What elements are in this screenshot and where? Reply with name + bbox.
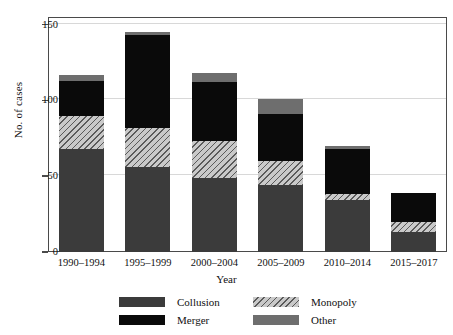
- legend-label-other: Other: [311, 314, 381, 326]
- bar-segment-merger[interactable]: [125, 35, 170, 127]
- legend-swatch-monopoly: [253, 297, 299, 307]
- x-tick-label-2015–2017: 2015–2017: [371, 257, 453, 268]
- legend-swatch-merger: [119, 315, 165, 325]
- bar-segment-merger[interactable]: [192, 82, 237, 141]
- bar-segment-collusion[interactable]: [125, 167, 170, 252]
- bar-2010–2014[interactable]: [325, 146, 370, 252]
- bar-segment-collusion[interactable]: [325, 200, 370, 252]
- bar-segment-collusion[interactable]: [391, 232, 436, 252]
- legend-swatch-other: [253, 315, 299, 325]
- bar-2005–2009[interactable]: [258, 99, 303, 252]
- bar-2000–2004[interactable]: [192, 73, 237, 252]
- bar-segment-other[interactable]: [258, 99, 303, 114]
- bar-segment-monopoly[interactable]: [125, 128, 170, 167]
- bar-segment-collusion[interactable]: [258, 185, 303, 252]
- bar-segment-other[interactable]: [192, 73, 237, 82]
- legend-swatch-collusion: [119, 297, 165, 307]
- bar-1995–1999[interactable]: [125, 32, 170, 252]
- chart-legend: CollusionMonopolyMergerOther: [119, 294, 369, 328]
- bar-segment-merger[interactable]: [59, 81, 104, 116]
- bar-1990–1994[interactable]: [59, 75, 104, 252]
- x-axis-title: Year: [0, 273, 453, 285]
- legend-label-monopoly: Monopoly: [311, 296, 381, 308]
- bar-segment-collusion[interactable]: [59, 149, 104, 252]
- bar-segment-monopoly[interactable]: [59, 116, 104, 149]
- bar-segment-monopoly[interactable]: [391, 222, 436, 233]
- legend-label-merger: Merger: [177, 314, 247, 326]
- bar-2015–2017[interactable]: [391, 193, 436, 252]
- bar-segment-merger[interactable]: [325, 149, 370, 194]
- bar-segment-merger[interactable]: [391, 193, 436, 222]
- bar-segment-collusion[interactable]: [192, 178, 237, 252]
- y-axis-title: No. of cases: [12, 70, 24, 150]
- bar-segment-merger[interactable]: [258, 114, 303, 161]
- bars-layer: [48, 17, 447, 252]
- legend-label-collusion: Collusion: [177, 296, 247, 308]
- bar-segment-monopoly[interactable]: [192, 141, 237, 177]
- bar-segment-monopoly[interactable]: [258, 161, 303, 185]
- stacked-bar-chart: No. of cases 050100150 1990–19941995–199…: [0, 0, 453, 335]
